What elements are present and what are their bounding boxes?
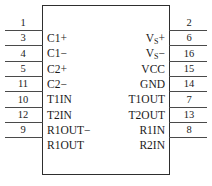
pin-label-16: VCC <box>60 64 165 76</box>
pin-number-14: 14 <box>171 79 207 90</box>
pin-lead-15 <box>169 76 207 77</box>
pin-number-5: 5 <box>5 64 41 75</box>
pin-lead-2 <box>169 30 207 31</box>
pin-number-13: 13 <box>171 110 207 121</box>
pin-lead-3 <box>5 45 43 46</box>
pin-number-9: 9 <box>5 125 41 136</box>
pin-label-6: VS− <box>60 48 165 60</box>
pin-lead-6 <box>169 45 207 46</box>
pin-lead-10 <box>5 107 43 108</box>
pin-label-14: T1OUT <box>60 94 165 106</box>
pin-number-6: 6 <box>171 33 207 44</box>
pin-lead-5 <box>5 76 43 77</box>
pin-label-subscript: S <box>154 37 158 46</box>
pin-lead-9 <box>5 137 43 138</box>
pin-label-13: R1IN <box>60 125 165 137</box>
pin-lead-1 <box>5 30 43 31</box>
pin-lead-4 <box>5 61 43 62</box>
pin-lead-14 <box>169 91 207 92</box>
pin-label-7: T2OUT <box>60 110 165 122</box>
ic-pinout-diagram: 1C1+3C1−4C2+5C2−11T1IN10T2IN12R1OUT−9R1O… <box>0 0 212 186</box>
pin-lead-11 <box>5 91 43 92</box>
pin-number-7: 7 <box>171 95 207 106</box>
pin-label-subscript: S <box>154 52 158 61</box>
pin-number-15: 15 <box>171 64 207 75</box>
pin-number-2: 2 <box>171 18 207 29</box>
pin-number-3: 3 <box>5 33 41 44</box>
pin-number-16: 16 <box>171 49 207 60</box>
pin-lead-13 <box>169 122 207 123</box>
pin-number-8: 8 <box>171 125 207 136</box>
pin-number-4: 4 <box>5 49 41 60</box>
pin-lead-8 <box>169 137 207 138</box>
pin-lead-7 <box>169 107 207 108</box>
pin-number-12: 12 <box>5 110 41 121</box>
pin-number-11: 11 <box>5 79 41 90</box>
pin-lead-16 <box>169 61 207 62</box>
pin-label-15: GND <box>60 79 165 91</box>
pin-number-10: 10 <box>5 95 41 106</box>
pin-lead-12 <box>5 122 43 123</box>
pin-label-2: VS+ <box>60 33 165 45</box>
pin-number-1: 1 <box>5 18 41 29</box>
pin-label-8: R2IN <box>60 140 165 152</box>
